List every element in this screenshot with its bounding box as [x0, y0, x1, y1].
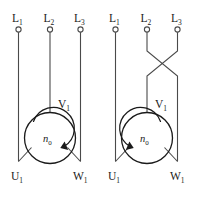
label-l1-left: L1 — [12, 12, 23, 27]
rotation-arrowhead-right — [126, 142, 134, 150]
panel-right: L1 L2 L3 V1 n0 U1 W1 — [108, 12, 185, 185]
label-n0-left: n0 — [43, 133, 52, 147]
rotation-arrowhead-left — [60, 142, 68, 150]
label-l2-left: L2 — [44, 12, 55, 27]
label-l3-left: L3 — [74, 12, 85, 27]
terminal-marker-l3-right — [175, 27, 180, 32]
label-l1-right: L1 — [109, 12, 120, 27]
leg-u1-left — [19, 148, 32, 162]
label-n0-right: n0 — [140, 133, 149, 147]
diagram-canvas: L1 L2 L3 V1 n0 U1 W1 L1 L2 L3 V1 n0 — [0, 0, 197, 198]
terminal-marker-l1-left — [16, 27, 21, 32]
label-u1-right: U1 — [108, 170, 120, 185]
label-w1-right: W1 — [170, 170, 185, 185]
label-l2-right: L2 — [141, 12, 152, 27]
label-l3-right: L3 — [171, 12, 182, 27]
terminal-marker-l2-left — [47, 27, 52, 32]
terminal-marker-l2-right — [144, 27, 149, 32]
label-u1-left: U1 — [11, 170, 23, 185]
motor-reversal-diagram: L1 L2 L3 V1 n0 U1 W1 L1 L2 L3 V1 n0 — [0, 0, 197, 198]
label-v1-right: V1 — [155, 98, 167, 113]
terminal-marker-l3-left — [78, 27, 83, 32]
terminal-marker-l1-right — [113, 27, 118, 32]
panel-left: L1 L2 L3 V1 n0 U1 W1 — [11, 12, 88, 185]
label-w1-left: W1 — [73, 170, 88, 185]
wire-l2-crossed-right — [147, 32, 178, 161]
